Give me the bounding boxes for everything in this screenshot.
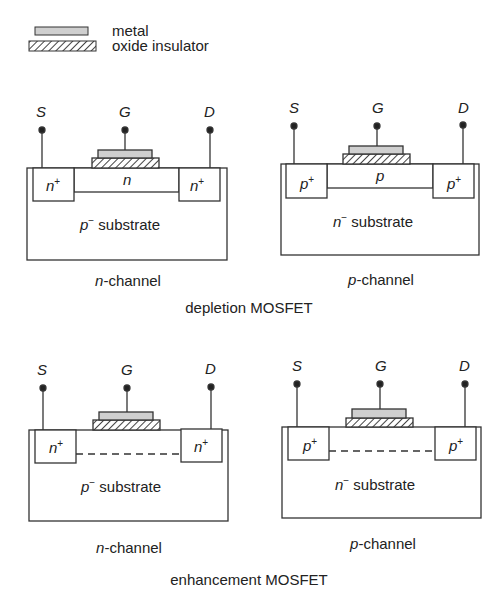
source-label: S <box>36 104 46 119</box>
legend-label-metal: metal <box>112 23 149 38</box>
metal-gate <box>349 146 403 154</box>
gate-terminal-dot <box>122 127 128 133</box>
metal-swatch <box>35 27 88 35</box>
gate-terminal-dot <box>374 123 380 129</box>
gate-label: G <box>375 358 387 373</box>
caption-n-channel: n-channel <box>95 273 161 288</box>
source-terminal-dot <box>39 127 45 133</box>
drain-label: D <box>205 361 216 376</box>
caption-p-channel: p-channel <box>348 272 414 287</box>
oxide-layer <box>92 158 159 168</box>
oxide-hatch-swatch <box>29 41 96 51</box>
legend-label-oxide: oxide insulator <box>112 38 209 53</box>
source-label: S <box>292 358 302 373</box>
caption-p-channel: p-channel <box>350 536 416 551</box>
drain-terminal-dot <box>207 127 213 133</box>
source-well-label: n+ <box>46 177 60 193</box>
drain-well-label: p+ <box>449 437 463 453</box>
group-title-depletion: depletion MOSFET <box>185 300 313 315</box>
group-title-enhancement: enhancement MOSFET <box>170 572 328 587</box>
oxide-layer <box>93 420 160 430</box>
substrate-label: p− substrate <box>80 216 160 232</box>
gate-terminal-dot <box>377 381 383 387</box>
drain-terminal-dot <box>462 381 468 387</box>
source-terminal-dot <box>294 381 300 387</box>
drain-terminal-dot <box>460 122 466 128</box>
oxide-layer <box>346 418 413 427</box>
drain-terminal-dot <box>208 384 214 390</box>
substrate-label: n− substrate <box>335 476 415 492</box>
drain-well-label: p+ <box>447 175 461 191</box>
channel-label: p <box>376 168 384 183</box>
gate-label: G <box>119 104 131 119</box>
drain-label: D <box>459 358 470 373</box>
drain-label: D <box>458 100 469 115</box>
source-label: S <box>289 100 299 115</box>
source-well-label: p+ <box>300 175 314 191</box>
source-terminal-dot <box>40 385 46 391</box>
legend <box>29 27 96 51</box>
substrate-label: p− substrate <box>81 478 161 494</box>
gate-terminal-dot <box>124 385 130 391</box>
channel-label: n <box>123 172 131 187</box>
metal-gate <box>98 150 152 158</box>
gate-label: G <box>372 100 384 115</box>
source-well-label: n+ <box>49 439 63 455</box>
metal-gate <box>99 412 153 420</box>
oxide-layer <box>343 154 410 164</box>
source-well-label: p+ <box>303 437 317 453</box>
substrate-label: n− substrate <box>333 213 413 229</box>
drain-well-label: n+ <box>190 177 204 193</box>
source-terminal-dot <box>291 123 297 129</box>
gate-label: G <box>121 362 133 377</box>
drain-well-label: n+ <box>194 438 208 454</box>
source-label: S <box>37 362 47 377</box>
caption-n-channel: n-channel <box>96 540 162 555</box>
metal-gate <box>352 409 406 418</box>
drain-label: D <box>204 104 215 119</box>
